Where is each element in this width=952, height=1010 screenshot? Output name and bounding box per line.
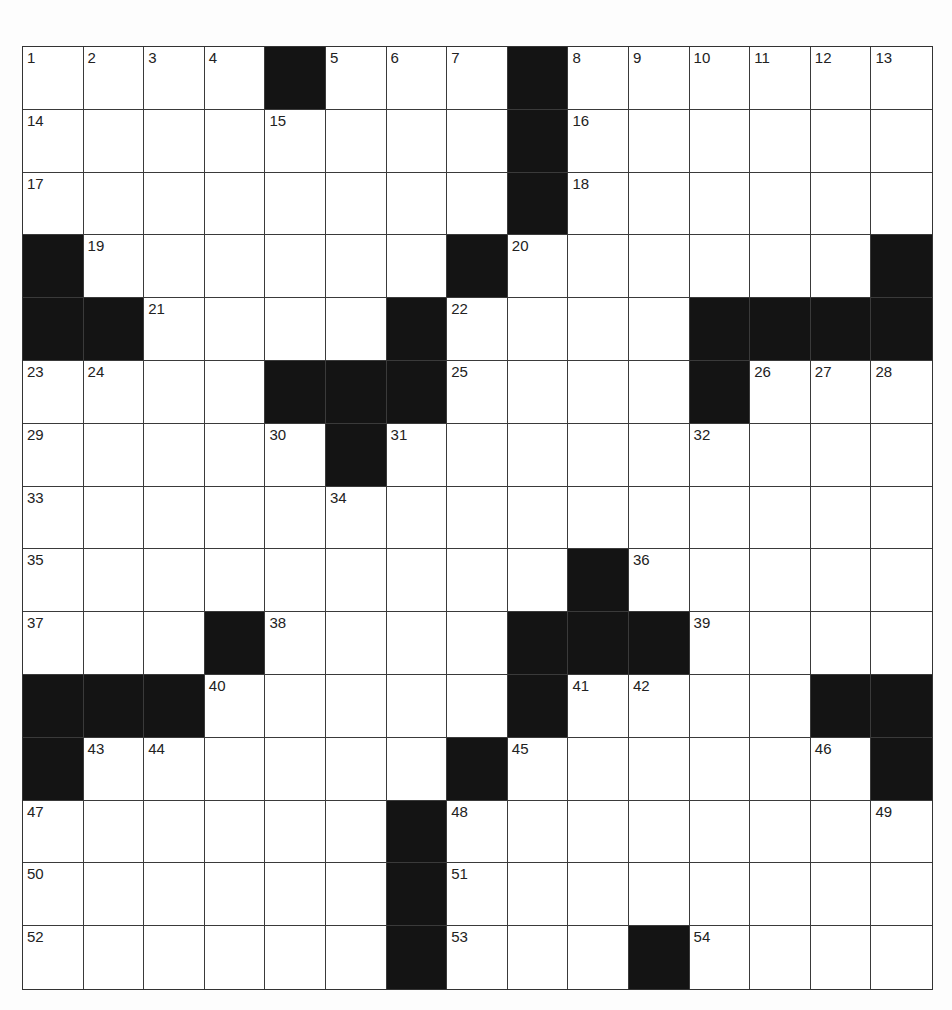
cell[interactable] bbox=[508, 549, 569, 612]
cell[interactable] bbox=[144, 173, 205, 236]
cell-30[interactable]: 30 bbox=[265, 424, 326, 487]
cell[interactable] bbox=[750, 675, 811, 738]
cell[interactable] bbox=[750, 235, 811, 298]
cell[interactable] bbox=[326, 549, 387, 612]
cell[interactable] bbox=[568, 738, 629, 801]
cell[interactable] bbox=[205, 110, 266, 173]
cell-33[interactable]: 33 bbox=[23, 487, 84, 550]
cell[interactable] bbox=[811, 424, 872, 487]
cell-27[interactable]: 27 bbox=[811, 361, 872, 424]
cell-50[interactable]: 50 bbox=[23, 863, 84, 926]
cell[interactable] bbox=[144, 801, 205, 864]
cell[interactable] bbox=[265, 675, 326, 738]
cell[interactable] bbox=[326, 863, 387, 926]
cell-51[interactable]: 51 bbox=[447, 863, 508, 926]
cell[interactable] bbox=[750, 110, 811, 173]
cell[interactable] bbox=[508, 926, 569, 989]
cell-36[interactable]: 36 bbox=[629, 549, 690, 612]
cell[interactable] bbox=[811, 801, 872, 864]
cell[interactable] bbox=[265, 926, 326, 989]
cell[interactable] bbox=[871, 926, 932, 989]
cell-41[interactable]: 41 bbox=[568, 675, 629, 738]
cell[interactable] bbox=[84, 424, 145, 487]
cell-35[interactable]: 35 bbox=[23, 549, 84, 612]
cell[interactable] bbox=[568, 926, 629, 989]
cell[interactable] bbox=[750, 424, 811, 487]
cell-25[interactable]: 25 bbox=[447, 361, 508, 424]
cell[interactable] bbox=[205, 235, 266, 298]
cell-5[interactable]: 5 bbox=[326, 47, 387, 110]
cell-32[interactable]: 32 bbox=[690, 424, 751, 487]
cell[interactable] bbox=[265, 801, 326, 864]
cell[interactable] bbox=[629, 424, 690, 487]
cell[interactable] bbox=[568, 298, 629, 361]
cell[interactable] bbox=[447, 549, 508, 612]
cell[interactable] bbox=[750, 173, 811, 236]
cell-3[interactable]: 3 bbox=[144, 47, 205, 110]
cell[interactable] bbox=[205, 738, 266, 801]
cell[interactable] bbox=[629, 361, 690, 424]
cell[interactable] bbox=[144, 549, 205, 612]
cell[interactable] bbox=[811, 487, 872, 550]
cell-19[interactable]: 19 bbox=[84, 235, 145, 298]
cell-49[interactable]: 49 bbox=[871, 801, 932, 864]
cell-21[interactable]: 21 bbox=[144, 298, 205, 361]
cell-1[interactable]: 1 bbox=[23, 47, 84, 110]
cell[interactable] bbox=[84, 926, 145, 989]
cell[interactable] bbox=[205, 863, 266, 926]
cell[interactable] bbox=[447, 675, 508, 738]
cell[interactable] bbox=[690, 675, 751, 738]
cell[interactable] bbox=[205, 926, 266, 989]
cell[interactable] bbox=[326, 110, 387, 173]
cell-6[interactable]: 6 bbox=[387, 47, 448, 110]
cell-8[interactable]: 8 bbox=[568, 47, 629, 110]
cell[interactable] bbox=[205, 173, 266, 236]
cell[interactable] bbox=[326, 612, 387, 675]
cell[interactable] bbox=[629, 235, 690, 298]
cell-29[interactable]: 29 bbox=[23, 424, 84, 487]
cell[interactable] bbox=[447, 173, 508, 236]
cell[interactable] bbox=[387, 612, 448, 675]
cell[interactable] bbox=[629, 173, 690, 236]
cell[interactable] bbox=[508, 487, 569, 550]
cell[interactable] bbox=[690, 235, 751, 298]
cell-39[interactable]: 39 bbox=[690, 612, 751, 675]
cell[interactable] bbox=[387, 549, 448, 612]
cell-45[interactable]: 45 bbox=[508, 738, 569, 801]
cell[interactable] bbox=[447, 612, 508, 675]
cell[interactable] bbox=[326, 801, 387, 864]
cell[interactable] bbox=[387, 675, 448, 738]
cell[interactable] bbox=[387, 110, 448, 173]
cell-13[interactable]: 13 bbox=[871, 47, 932, 110]
cell-31[interactable]: 31 bbox=[387, 424, 448, 487]
cell[interactable] bbox=[144, 612, 205, 675]
cell[interactable] bbox=[811, 173, 872, 236]
cell-26[interactable]: 26 bbox=[750, 361, 811, 424]
cell-11[interactable]: 11 bbox=[750, 47, 811, 110]
cell-40[interactable]: 40 bbox=[205, 675, 266, 738]
cell-28[interactable]: 28 bbox=[871, 361, 932, 424]
cell[interactable] bbox=[387, 487, 448, 550]
cell[interactable] bbox=[387, 235, 448, 298]
cell-46[interactable]: 46 bbox=[811, 738, 872, 801]
cell[interactable] bbox=[205, 298, 266, 361]
cell[interactable] bbox=[811, 926, 872, 989]
cell[interactable] bbox=[750, 863, 811, 926]
cell[interactable] bbox=[690, 173, 751, 236]
cell[interactable] bbox=[750, 612, 811, 675]
cell[interactable] bbox=[205, 487, 266, 550]
cell[interactable] bbox=[326, 738, 387, 801]
cell[interactable] bbox=[84, 549, 145, 612]
cell[interactable] bbox=[871, 424, 932, 487]
cell[interactable] bbox=[144, 926, 205, 989]
cell[interactable] bbox=[568, 235, 629, 298]
cell-24[interactable]: 24 bbox=[84, 361, 145, 424]
cell[interactable] bbox=[265, 173, 326, 236]
cell[interactable] bbox=[750, 738, 811, 801]
cell[interactable] bbox=[811, 863, 872, 926]
cell[interactable] bbox=[871, 549, 932, 612]
cell[interactable] bbox=[750, 801, 811, 864]
cell[interactable] bbox=[629, 863, 690, 926]
cell[interactable] bbox=[871, 173, 932, 236]
cell-14[interactable]: 14 bbox=[23, 110, 84, 173]
